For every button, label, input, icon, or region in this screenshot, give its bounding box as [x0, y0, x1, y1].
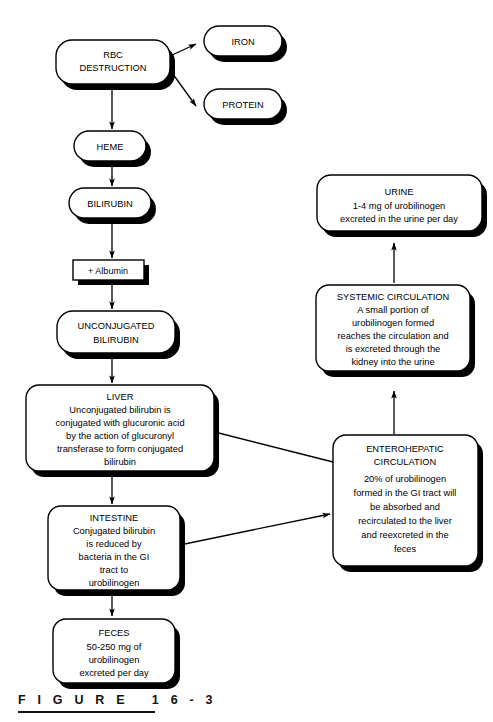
node-rbc-destruction-line2: DESTRUCTION [79, 63, 146, 73]
node-systemic-line4: is excreted through the [346, 344, 441, 354]
node-systemic-title: SYSTEMIC CIRCULATION [337, 292, 449, 302]
node-intestine-line1: Conjugated bilirubin [73, 526, 155, 536]
node-urine-title: URINE [385, 187, 414, 197]
figure-bilirubin-metabolism-flowchart: RBC DESTRUCTION IRON PROTEIN HEME BILIRU… [0, 0, 493, 722]
node-unconjugated-line1: UNCONJUGATED [78, 321, 155, 331]
figure-caption: F I G U R E 1 6 - 3 [18, 694, 318, 713]
figure-caption-rule [18, 711, 155, 713]
node-unconjugated-line2: BILIRUBIN [93, 335, 138, 345]
figure-caption-text: F I G U R E 1 6 - 3 [18, 694, 318, 708]
node-liver-line5: bilirubin [104, 457, 136, 467]
node-intestine-title: INTESTINE [90, 513, 139, 523]
node-enterohepatic-circulation[interactable]: ENTEROHEPATIC CIRCULATION 20% of urobili… [333, 435, 483, 572]
node-intestine-line5: urobilinogen [89, 578, 140, 588]
node-liver-title: LIVER [107, 392, 134, 402]
node-albumin[interactable]: + Albumin [73, 260, 149, 285]
node-rbc-destruction-line1: RBC [103, 50, 123, 60]
node-systemic-line5: kidney into the urine [351, 357, 434, 367]
node-enterohepatic-title1: ENTEROHEPATIC [366, 444, 444, 454]
node-urine-line1: 1-4 mg of urobilinogen [353, 201, 446, 211]
node-liver-line1: Unconjugated bilirubin is [69, 405, 171, 415]
node-feces[interactable]: FECES 50-250 mg of urobilinogen excreted… [53, 619, 180, 689]
node-protein[interactable]: PROTEIN [204, 89, 287, 125]
node-enterohepatic-line3: be absorbed and [370, 502, 440, 512]
node-feces-line2: urobilinogen [89, 655, 140, 665]
node-urine-line2: excreted in the urine per day [340, 214, 458, 224]
node-urine[interactable]: URINE 1-4 mg of urobilinogen excreted in… [317, 175, 487, 237]
node-enterohepatic-title2: CIRCULATION [374, 457, 436, 467]
node-protein-label: PROTEIN [222, 100, 263, 110]
connector-rbc-to-iron [170, 44, 196, 56]
node-systemic-circulation[interactable]: SYSTEMIC CIRCULATION A small portion of … [316, 285, 475, 377]
node-liver-line3: by the action of glucuronyl [66, 431, 174, 441]
node-enterohepatic-line6: feces [394, 544, 417, 554]
node-liver-line4: transferase to form conjugated [57, 444, 183, 454]
node-intestine-line4: tract to [100, 565, 128, 575]
node-bilirubin[interactable]: BILIRUBIN [69, 188, 156, 224]
node-enterohepatic-line5: and reexcreted in the [361, 530, 448, 540]
node-intestine-line3: bacteria in the GI [79, 552, 150, 562]
node-albumin-label: + Albumin [88, 266, 128, 276]
node-feces-line3: excreted per day [79, 668, 149, 678]
node-liver[interactable]: LIVER Unconjugated bilirubin is conjugat… [26, 385, 219, 477]
node-iron[interactable]: IRON [204, 26, 287, 62]
node-rbc-destruction[interactable]: RBC DESTRUCTION [56, 40, 175, 90]
node-systemic-line2: urobilinogen formed [352, 318, 434, 328]
node-intestine-line2: is reduced by [86, 539, 142, 549]
node-feces-title: FECES [99, 628, 130, 638]
node-bilirubin-label: BILIRUBIN [87, 199, 132, 209]
connector-enterohepatic-to-liver [199, 428, 333, 462]
node-feces-line1: 50-250 mg of [87, 642, 142, 652]
node-iron-label: IRON [231, 37, 254, 47]
flowchart-canvas: RBC DESTRUCTION IRON PROTEIN HEME BILIRU… [0, 0, 493, 722]
node-heme[interactable]: HEME [74, 131, 151, 167]
node-systemic-line3: reaches the circulation and [337, 331, 448, 341]
node-liver-line2: conjugated with glucuronic acid [55, 418, 184, 428]
node-unconjugated-bilirubin[interactable]: UNCONJUGATED BILIRUBIN [57, 311, 180, 359]
node-enterohepatic-line4: recirculated to the liver [358, 516, 452, 526]
node-enterohepatic-line1: 20% of urobilinogen [364, 474, 446, 484]
connector-intestine-to-enterohepatic [175, 514, 330, 546]
node-heme-label: HEME [97, 142, 124, 152]
node-enterohepatic-line2: formed in the GI tract will [354, 488, 457, 498]
node-intestine[interactable]: INTESTINE Conjugated bilirubin is reduce… [48, 506, 185, 596]
node-systemic-line1: A small portion of [357, 305, 429, 315]
